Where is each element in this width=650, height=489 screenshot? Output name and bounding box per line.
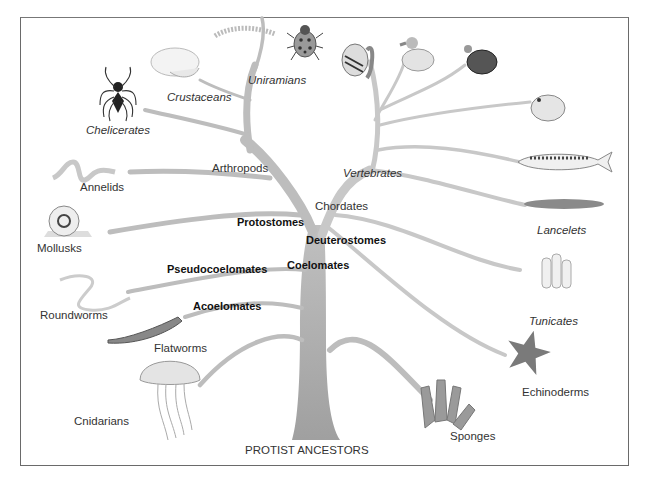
- label-roundworms: Roundworms: [40, 310, 108, 322]
- label-chordates: Chordates: [315, 201, 368, 213]
- label-sponges: Sponges: [450, 431, 495, 443]
- label-flatworms: Flatworms: [154, 343, 207, 355]
- jellyfish-illustration: [140, 361, 200, 440]
- flatworm-illustration: [108, 317, 182, 343]
- label-deuterostomes: Deuterostomes: [306, 235, 386, 246]
- crab-illustration: [151, 48, 199, 77]
- chipmunk-illustration: [342, 44, 372, 78]
- earthworm-illustration: [53, 162, 115, 180]
- label-lancelets: Lancelets: [537, 225, 586, 237]
- lancelet-illustration: [524, 199, 604, 209]
- label-arthropods: Arthropods: [212, 163, 268, 175]
- roundworm-illustration: [60, 276, 130, 310]
- label-crustaceans: Crustaceans: [167, 92, 232, 104]
- label-cnidarians: Cnidarians: [74, 416, 129, 428]
- ladybug-illustration: [287, 25, 323, 60]
- frog-illustration: [531, 95, 565, 121]
- label-echinoderms: Echinoderms: [522, 387, 589, 399]
- deuterostome-branches: [322, 60, 530, 400]
- tunicate-illustration: [542, 254, 571, 288]
- sponge-illustration: [421, 380, 475, 430]
- label-acoelomates: Acoelomates: [193, 301, 261, 312]
- trunk: [292, 225, 340, 440]
- fish-illustration: [518, 152, 612, 172]
- label-tunicates: Tunicates: [529, 316, 578, 328]
- label-pseudocoelomates: Pseudocoelomates: [167, 264, 267, 275]
- centipede-illustration: [215, 28, 275, 36]
- spider-illustration: [100, 67, 136, 121]
- label-protostomes: Protostomes: [237, 217, 304, 228]
- label-chelicerates: Chelicerates: [86, 125, 150, 137]
- duck-illustration: [400, 37, 434, 71]
- label-root-protist-ancestors: PROTIST ANCESTORS: [245, 445, 369, 457]
- label-mollusks: Mollusks: [37, 243, 82, 255]
- snail-illustration: [44, 206, 92, 237]
- label-vertebrates: Vertebrates: [343, 168, 402, 180]
- turtle-illustration: [464, 45, 497, 74]
- label-uniramians: Uniramians: [248, 75, 306, 87]
- label-annelids: Annelids: [80, 182, 124, 194]
- starfish-illustration: [502, 325, 555, 377]
- label-coelomates: Coelomates: [287, 260, 349, 271]
